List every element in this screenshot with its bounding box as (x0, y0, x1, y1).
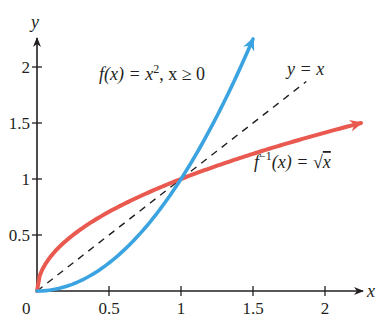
y-axis-label: y (29, 12, 39, 32)
identity-line-y-equals-x (37, 82, 306, 291)
y-tick-label: 1 (22, 170, 31, 189)
inv-label-sup: −1 (259, 149, 272, 163)
f-of-x-annotation: f(x) = x2, x ≥ 0 (99, 62, 205, 85)
x-tick-label: 1 (177, 299, 186, 318)
origin-label: 0 (22, 299, 31, 318)
y-tick-label: 1.5 (9, 114, 30, 133)
x-tick-label: 2 (321, 299, 330, 318)
x-tick-label: 0.5 (98, 299, 119, 318)
f-label-cond: , x ≥ 0 (159, 64, 205, 84)
y-tick-label: 2 (22, 58, 31, 77)
y-tick-label: 0.5 (9, 226, 30, 245)
inv-label-sqrt: √ (313, 152, 323, 172)
x-tick-label: 1.5 (242, 299, 263, 318)
inverse-function-chart: 0.511.52 0.511.52 x y 0 f(x) = x2, x ≥ 0… (0, 0, 380, 334)
inv-label-x: x (322, 152, 331, 172)
x-axis-label: x (366, 281, 375, 301)
inverse-annotation: f−1(x) = √x (254, 149, 331, 173)
f-label-main: f(x) = x (99, 64, 153, 85)
inv-label-rest: (x) = (272, 152, 313, 173)
identity-annotation: y = x (285, 59, 324, 79)
